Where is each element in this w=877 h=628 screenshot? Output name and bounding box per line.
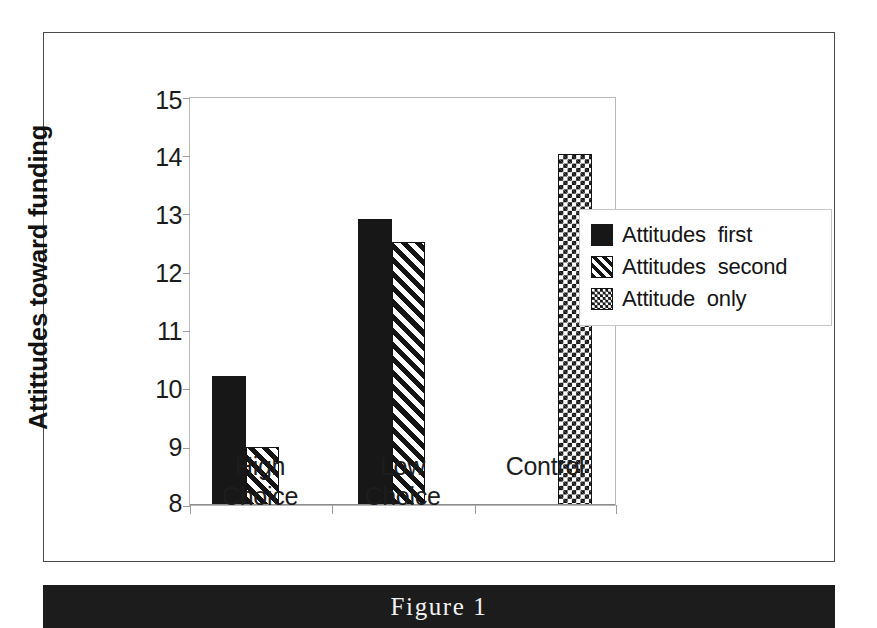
y-tick-label-14: 14 <box>138 143 182 172</box>
y-tick-mark-10 <box>183 389 190 390</box>
legend-label-attitudes-first: Attitudes first <box>622 222 752 248</box>
y-tick-mark-9 <box>183 448 190 449</box>
legend-item-attitude-only: Attitude only <box>591 283 821 315</box>
y-tick-mark-14 <box>183 156 190 157</box>
legend-swatch-hatch-icon <box>591 256 613 278</box>
x-group-label-line2: Choice <box>189 481 331 511</box>
x-tick-mark-2 <box>475 505 476 514</box>
x-group-label-control: Control <box>474 451 616 481</box>
y-tick-label-9: 9 <box>138 432 182 461</box>
x-group-label-high-choice: High Choice <box>189 451 331 511</box>
x-group-label-line2: Choice <box>331 481 474 511</box>
figure-caption-text: Figure 1 <box>391 593 488 621</box>
legend-swatch-solid-icon <box>591 224 613 246</box>
x-group-label-low-choice: Low Choice <box>331 451 474 511</box>
y-tick-label-10: 10 <box>138 374 182 403</box>
legend-swatch-checker-icon <box>591 288 613 310</box>
legend: Attitudes first Attitudes second Attitud… <box>579 209 832 326</box>
x-tick-mark-3 <box>616 505 617 514</box>
x-group-label-line1: Control <box>474 451 616 481</box>
legend-label-attitude-only: Attitude only <box>622 286 746 312</box>
y-tick-label-12: 12 <box>138 259 182 288</box>
legend-item-attitudes-second: Attitudes second <box>591 251 821 283</box>
y-axis-title: Attittudes toward funding <box>24 43 53 513</box>
y-tick-label-8: 8 <box>138 488 182 517</box>
y-axis-tick-labels: 15 14 13 12 11 10 9 8 <box>132 98 182 505</box>
plot-area: 15 14 13 12 11 10 9 8 <box>189 97 616 506</box>
y-tick-label-13: 13 <box>138 201 182 230</box>
y-tick-mark-12 <box>183 273 190 274</box>
figure-caption-band: Figure 1 <box>43 585 835 628</box>
legend-label-attitudes-second: Attitudes second <box>622 254 787 280</box>
x-group-label-line1: High <box>189 451 331 481</box>
y-tick-mark-15 <box>183 98 190 99</box>
x-group-label-line1: Low <box>331 451 474 481</box>
y-tick-mark-11 <box>183 331 190 332</box>
y-tick-label-15: 15 <box>138 86 182 115</box>
figure-frame: 15 14 13 12 11 10 9 8 <box>43 32 835 562</box>
y-tick-mark-13 <box>183 214 190 215</box>
y-tick-label-11: 11 <box>138 316 182 345</box>
legend-item-attitudes-first: Attitudes first <box>591 219 821 251</box>
